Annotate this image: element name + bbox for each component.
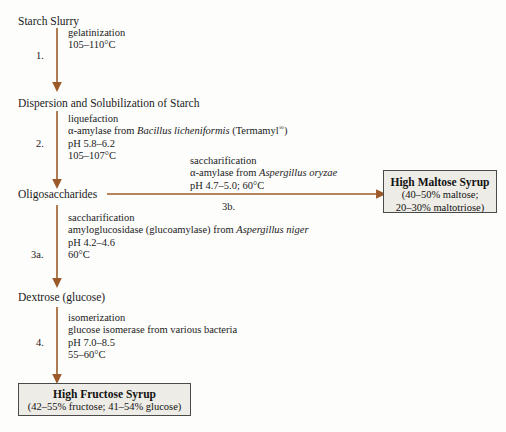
step-2-line-3: pH 5.8–6.2: [68, 138, 287, 150]
step-2-brand-prefix: (Termamyl: [230, 125, 279, 136]
step-4-line-4: 55–60°C: [68, 349, 237, 361]
product-box-high-maltose-syrup: High Maltose Syrup (40–50% maltose; 20–3…: [383, 170, 497, 213]
step-3a-enzyme-prefix: amyloglucosidase (glucoamylase) from: [68, 224, 236, 235]
step-4-line-1: isomerization: [68, 312, 237, 324]
annotation-step-3a: saccharification amyloglucosidase (gluco…: [68, 212, 308, 262]
fructose-detail-1: (42–55% fructose; 41–54% glucose): [19, 401, 190, 414]
step-2-enzyme-prefix: α-amylase from: [68, 125, 137, 136]
maltose-detail-1: (40–50% maltose;: [384, 189, 496, 202]
node-dextrose: Dextrose (glucose): [18, 291, 105, 304]
product-box-high-fructose-syrup: High Fructose Syrup (42–55% fructose; 41…: [18, 383, 191, 416]
step-2-line-1: liquefaction: [68, 113, 287, 125]
step-3b-line-2: α-amylase from Aspergillus oryzae: [190, 167, 337, 179]
annotation-step-3b: saccharification α-amylase from Aspergil…: [190, 155, 337, 192]
step-3a-line-3: pH 4.2–4.6: [68, 237, 308, 249]
maltose-detail-2: 20–30% maltotriose): [384, 202, 496, 215]
step-label-1: 1.: [36, 50, 44, 62]
annotation-step-1: gelatinization 105–110°C: [68, 27, 125, 52]
maltose-title: High Maltose Syrup: [384, 175, 496, 189]
step-3a-line-4: 60°C: [68, 249, 308, 261]
step-label-4: 4.: [36, 337, 44, 349]
step-1-line-1: gelatinization: [68, 27, 125, 39]
step-3b-line-1: saccharification: [190, 155, 337, 167]
step-3a-line-2: amyloglucosidase (glucoamylase) from Asp…: [68, 224, 308, 236]
node-oligosaccharides: Oligosaccharides: [18, 188, 97, 201]
step-1-line-2: 105–110°C: [68, 39, 125, 51]
flow-diagram: Starch Slurry 1. gelatinization 105–110°…: [0, 0, 506, 432]
step-3a-organism: Aspergillus niger: [236, 224, 308, 235]
annotation-step-4: isomerization glucose isomerase from var…: [68, 312, 237, 362]
step-label-2: 2.: [36, 138, 44, 150]
step-3b-line-3: pH 4.7–5.0; 60°C: [190, 180, 337, 192]
step-4-line-3: pH 7.0–8.5: [68, 337, 237, 349]
node-dispersion: Dispersion and Solubilization of Starch: [18, 97, 199, 110]
step-3a-line-1: saccharification: [68, 212, 308, 224]
step-4-line-2: glucose isomerase from various bacteria: [68, 324, 237, 336]
step-label-3a: 3a.: [31, 249, 44, 261]
step-3b-organism: Aspergillus oryzae: [259, 167, 337, 178]
step-2-brand-suffix: ): [284, 125, 288, 136]
step-3b-enzyme-prefix: α-amylase from: [190, 167, 259, 178]
step-2-line-2: α-amylase from Bacillus licheniformis (T…: [68, 125, 287, 137]
step-2-organism: Bacillus licheniformis: [137, 125, 229, 136]
fructose-title: High Fructose Syrup: [19, 387, 190, 401]
